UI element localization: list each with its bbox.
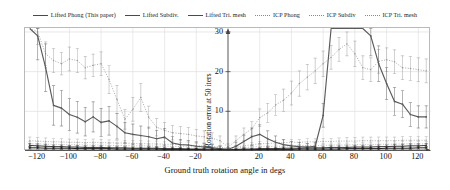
chart-legend: Lifted Phong (This paper)Lifted Subdiv.L…: [0, 8, 450, 22]
legend-item-2: Lifted Tri. mesh: [188, 12, 246, 18]
legend-item-4: ICP Subdiv: [309, 12, 356, 18]
x-tick-label: −80: [94, 152, 107, 161]
series-3: [30, 29, 428, 151]
x-tick-label: 60: [318, 152, 326, 161]
x-tick-label: −60: [125, 152, 138, 161]
legend-swatch-dotted-icon: [309, 15, 324, 16]
legend-label: Lifted Subdiv.: [143, 12, 179, 18]
x-tick-label: 20: [255, 152, 263, 161]
x-tick-label: −120: [28, 152, 45, 161]
legend-label: ICP Tri. mesh: [383, 12, 418, 18]
legend-swatch-dotted-icon: [365, 15, 380, 16]
x-tick-label: −100: [60, 152, 77, 161]
legend-swatch-dotted-icon: [255, 15, 270, 16]
plot-area: 102030Rotation error at 50 iters: [24, 27, 430, 150]
x-axis-label: Ground truth rotation angle in degs: [0, 166, 450, 175]
y-axis-spine: [226, 28, 231, 151]
x-tick-label: −20: [189, 152, 202, 161]
x-tick-label: 40: [286, 152, 294, 161]
figure-rotation-error-chart: Lifted Phong (This paper)Lifted Subdiv.L…: [0, 0, 450, 190]
x-tick-label: 80: [350, 152, 358, 161]
legend-item-0: Lifted Phong (This paper): [33, 12, 116, 18]
series-markers: [37, 35, 427, 150]
x-tick-label: 120: [411, 152, 423, 161]
legend-item-1: Lifted Subdiv.: [125, 12, 179, 18]
x-axis-ticks: −120−100−80−60−40−2020406080100120: [24, 152, 430, 165]
legend-swatch-solid-icon: [125, 15, 140, 16]
error-bars: [36, 29, 428, 151]
series-markers: [37, 31, 427, 147]
legend-label: ICP Phong: [273, 12, 300, 18]
legend-swatch-solid-icon: [188, 15, 203, 16]
x-tick-label: −40: [157, 152, 170, 161]
series-0: [30, 29, 428, 152]
legend-label: Lifted Tri. mesh: [206, 12, 246, 18]
legend-label: Lifted Phong (This paper): [51, 12, 116, 18]
legend-swatch-solid-icon: [33, 15, 48, 16]
error-bars: [36, 29, 428, 152]
legend-item-3: ICP Phong: [255, 12, 300, 18]
legend-item-5: ICP Tri. mesh: [365, 12, 418, 18]
legend-label: ICP Subdiv: [327, 12, 356, 18]
x-tick-label: 100: [379, 152, 391, 161]
plot-canvas: [25, 28, 431, 151]
